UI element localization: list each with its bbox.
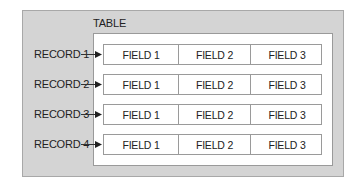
arrow-right-icon	[81, 44, 103, 65]
table-row: FIELD 1 FIELD 2 FIELD 3	[103, 74, 322, 95]
field-cell: FIELD 1	[104, 105, 178, 124]
table-row: FIELD 1 FIELD 2 FIELD 3	[103, 44, 322, 65]
field-cell: FIELD 3	[250, 45, 323, 64]
field-cell: FIELD 2	[178, 135, 250, 154]
field-cell: FIELD 3	[250, 105, 323, 124]
field-cell: FIELD 3	[250, 135, 323, 154]
field-cell: FIELD 1	[104, 75, 178, 94]
field-cell: FIELD 2	[178, 105, 250, 124]
field-cell: FIELD 1	[104, 45, 178, 64]
table-row: FIELD 1 FIELD 2 FIELD 3	[103, 134, 322, 155]
field-cell: FIELD 1	[104, 135, 178, 154]
field-cell: FIELD 2	[178, 45, 250, 64]
arrow-right-icon	[81, 74, 103, 95]
arrow-right-icon	[81, 134, 103, 155]
arrow-right-icon	[81, 104, 103, 125]
table-title: TABLE	[93, 17, 126, 29]
field-cell: FIELD 2	[178, 75, 250, 94]
field-cell: FIELD 3	[250, 75, 323, 94]
table-row: FIELD 1 FIELD 2 FIELD 3	[103, 104, 322, 125]
